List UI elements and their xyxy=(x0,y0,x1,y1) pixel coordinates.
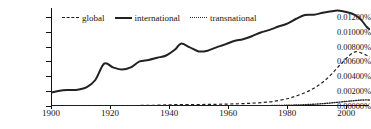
legend-item-transnational: transnational xyxy=(190,13,257,23)
x-axis-tick-label: 1940 xyxy=(149,109,189,118)
legend-item-global: global xyxy=(62,13,105,23)
series-line-global xyxy=(51,52,370,106)
legend-label-transnational: transnational xyxy=(210,13,257,23)
dotted-line-swatch-icon xyxy=(190,15,207,21)
x-axis-tick-label: 1980 xyxy=(267,109,307,118)
x-axis-tick-label: 1960 xyxy=(208,109,248,118)
x-axis-tick-label: 1920 xyxy=(90,109,130,118)
legend-label-global: global xyxy=(82,13,105,23)
legend-item-international: international xyxy=(115,13,180,23)
x-axis-tick-label: 1900 xyxy=(31,109,71,118)
line-chart: 0.00000%0.00200%0.00400%0.00600%0.00800%… xyxy=(0,0,371,129)
solid-line-swatch-icon xyxy=(115,15,132,21)
dashed-line-swatch-icon xyxy=(62,15,79,21)
series-line-transnational xyxy=(51,100,370,106)
x-axis-tick-label: 2000 xyxy=(326,109,366,118)
legend-label-international: international xyxy=(135,13,180,23)
chart-legend: global international transnational xyxy=(62,13,256,23)
